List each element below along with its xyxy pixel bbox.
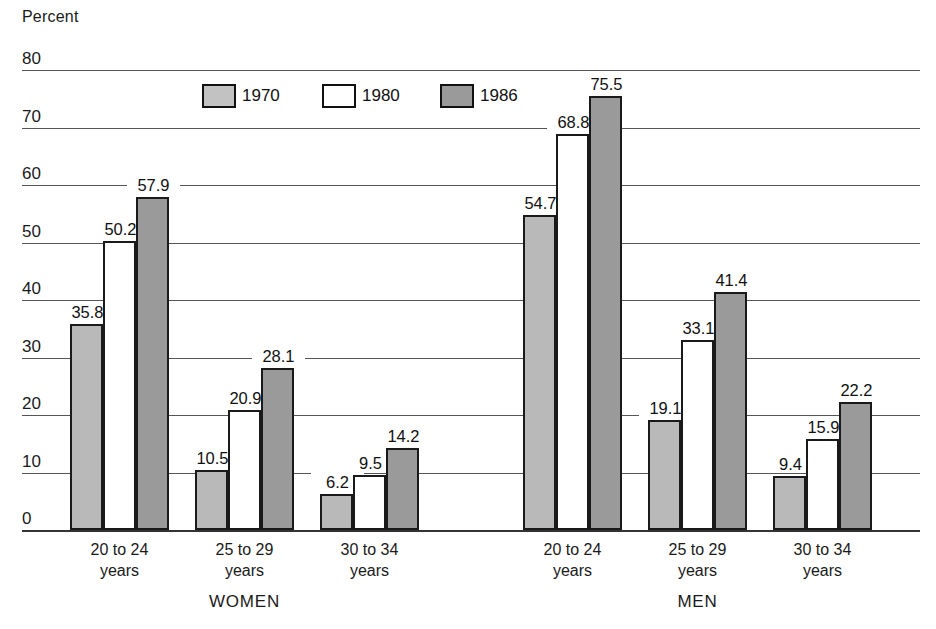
- group-label-line-1: 30 to 34: [302, 539, 437, 560]
- group-label-line-1: 20 to 24: [52, 539, 187, 560]
- bar: [386, 448, 419, 530]
- group-label-line-2: years: [177, 560, 312, 581]
- y-axis-tick-label: 20: [22, 394, 66, 414]
- y-axis-tick-label: 70: [22, 107, 66, 127]
- bar: [806, 439, 839, 530]
- group-label-line-1: 25 to 29: [630, 539, 765, 560]
- group-label-line-1: 25 to 29: [177, 539, 312, 560]
- group-label-line-1: 30 to 34: [755, 539, 890, 560]
- y-axis-tick-label: 50: [22, 222, 66, 242]
- bar: [195, 470, 228, 530]
- legend-swatch-icon: [202, 84, 236, 108]
- x-axis-group-label: 30 to 34years: [755, 539, 890, 581]
- y-axis-title: Percent: [22, 8, 79, 26]
- bar: [103, 241, 136, 530]
- x-axis-group-label: 20 to 24years: [52, 539, 187, 581]
- group-label-line-1: 20 to 24: [505, 539, 640, 560]
- panel-label-men: MEN: [503, 592, 892, 612]
- legend-label: 1980: [362, 86, 400, 106]
- x-axis-group-label: 25 to 29years: [177, 539, 312, 581]
- bar: [228, 410, 261, 530]
- bar: [556, 134, 589, 530]
- legend-label: 1986: [480, 86, 518, 106]
- bar-value-label: 75.5: [580, 75, 633, 93]
- bar: [773, 476, 806, 530]
- y-axis-tick-label: 80: [22, 49, 66, 69]
- bar-value-label: 14.2: [377, 427, 430, 445]
- bar: [839, 402, 872, 530]
- bar: [648, 420, 681, 530]
- bar: [136, 197, 169, 530]
- bar-value-label: 28.1: [252, 347, 305, 365]
- legend-swatch-icon: [440, 84, 474, 108]
- panel-label-women: WOMEN: [50, 592, 439, 612]
- legend-swatch-icon: [322, 84, 356, 108]
- legend-item-1980[interactable]: 1980: [322, 84, 400, 108]
- bar: [353, 475, 386, 530]
- bar-chart: Percent 80706050403020100 35.850.257.910…: [0, 0, 936, 629]
- y-axis-tick-label: 60: [22, 164, 66, 184]
- bar-value-label: 22.2: [830, 381, 883, 399]
- bar: [714, 292, 747, 530]
- bar: [523, 215, 556, 530]
- bar: [261, 368, 294, 530]
- axis-baseline: [22, 530, 920, 532]
- x-axis-group-label: 30 to 34years: [302, 539, 437, 581]
- group-label-line-2: years: [302, 560, 437, 581]
- bar: [320, 494, 353, 530]
- gridline: [22, 128, 920, 129]
- y-axis-tick-label: 40: [22, 279, 66, 299]
- group-label-line-2: years: [755, 560, 890, 581]
- gridline: [22, 70, 920, 71]
- bar-value-label: 57.9: [127, 176, 180, 194]
- y-axis-tick-label: 30: [22, 337, 66, 357]
- x-axis-group-label: 20 to 24years: [505, 539, 640, 581]
- group-label-line-2: years: [630, 560, 765, 581]
- bar: [70, 324, 103, 530]
- y-axis-tick-label: 0: [22, 509, 66, 529]
- legend-label: 1970: [242, 86, 280, 106]
- group-label-line-2: years: [505, 560, 640, 581]
- legend-item-1986[interactable]: 1986: [440, 84, 518, 108]
- x-axis-group-label: 25 to 29years: [630, 539, 765, 581]
- bar: [589, 96, 622, 530]
- bar-value-label: 41.4: [705, 271, 758, 289]
- y-axis-tick-label: 10: [22, 452, 66, 472]
- group-label-line-2: years: [52, 560, 187, 581]
- legend-item-1970[interactable]: 1970: [202, 84, 280, 108]
- bar: [681, 340, 714, 530]
